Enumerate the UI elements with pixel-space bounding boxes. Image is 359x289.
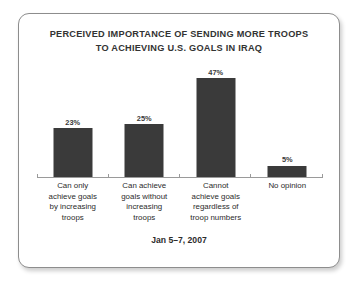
chart-title-line-1: PERCEIVED IMPORTANCE OF SENDING MORE TRO… bbox=[50, 29, 309, 39]
category-label-0-line-0: Can only bbox=[39, 181, 107, 192]
bar-cell-3: 5% bbox=[252, 76, 324, 178]
category-label-2-line-2: regardless of bbox=[182, 202, 250, 213]
category-label-2: Cannot achieve goals regardless of troop… bbox=[180, 181, 252, 223]
bar-1 bbox=[125, 124, 164, 177]
category-label-0-line-2: by increasing bbox=[39, 202, 107, 213]
axis-tick-0 bbox=[37, 174, 38, 178]
bar-0 bbox=[53, 128, 92, 177]
bar-cell-2: 47% bbox=[180, 76, 252, 178]
category-label-2-line-0: Cannot bbox=[182, 181, 250, 192]
category-labels: Can only achieve goals by increasing tro… bbox=[37, 181, 323, 223]
chart-title-line-2: TO ACHIEVING U.S. GOALS IN IRAQ bbox=[31, 42, 327, 56]
bar-2 bbox=[196, 78, 235, 177]
category-label-1: Can achieve goals without increasing tro… bbox=[109, 181, 181, 223]
category-label-1-line-2: increasing bbox=[111, 202, 179, 213]
category-label-2-line-1: achieve goals bbox=[182, 192, 250, 203]
bar-value-label-3: 5% bbox=[282, 155, 293, 164]
axis-tick-4 bbox=[322, 174, 323, 178]
category-label-1-line-1: goals without bbox=[111, 192, 179, 203]
bar-3 bbox=[268, 166, 307, 177]
bar-cell-0: 23% bbox=[37, 76, 109, 178]
axis-tick-1 bbox=[108, 174, 109, 178]
category-label-0: Can only achieve goals by increasing tro… bbox=[37, 181, 109, 223]
category-label-1-line-3: troops bbox=[111, 213, 179, 224]
category-label-3: No opinion bbox=[252, 181, 324, 223]
bar-value-label-1: 25% bbox=[137, 114, 152, 123]
plot-area: 23% 25% 47% 5% bbox=[37, 76, 323, 178]
axis-tick-2 bbox=[179, 174, 180, 178]
survey-date: Jan 5–7, 2007 bbox=[19, 235, 339, 245]
category-label-2-line-3: troop numbers bbox=[182, 213, 250, 224]
chart-card: PERCEIVED IMPORTANCE OF SENDING MORE TRO… bbox=[18, 13, 340, 268]
chart-title: PERCEIVED IMPORTANCE OF SENDING MORE TRO… bbox=[31, 28, 327, 55]
category-label-0-line-1: achieve goals bbox=[39, 192, 107, 203]
axis-tick-3 bbox=[250, 174, 251, 178]
category-label-0-line-3: troops bbox=[39, 213, 107, 224]
bar-value-label-0: 23% bbox=[65, 118, 80, 127]
bar-series: 23% 25% 47% 5% bbox=[37, 76, 323, 178]
x-axis-line bbox=[37, 177, 323, 178]
category-label-1-line-0: Can achieve bbox=[111, 181, 179, 192]
bar-cell-1: 25% bbox=[109, 76, 181, 178]
bar-value-label-2: 47% bbox=[208, 68, 223, 77]
category-label-3-line-0: No opinion bbox=[254, 181, 322, 192]
